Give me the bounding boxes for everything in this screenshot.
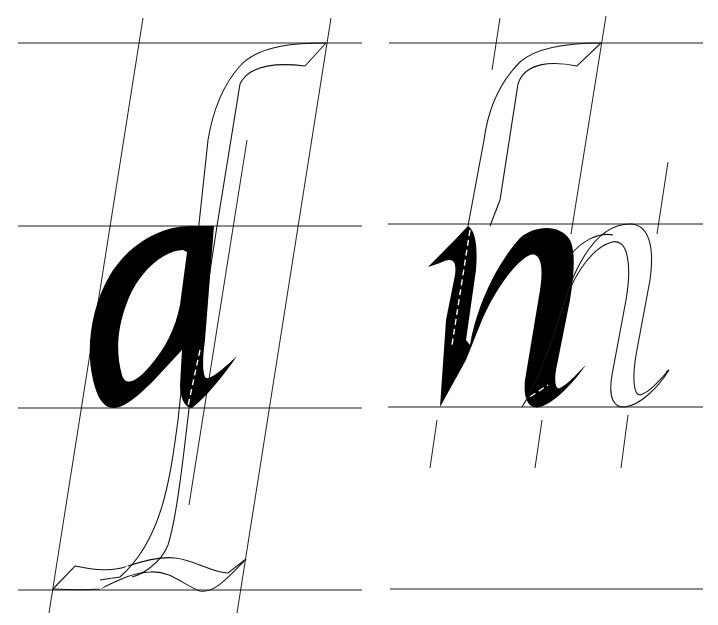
letter-n [428, 226, 586, 407]
right-panel [388, 16, 703, 589]
letter-a [90, 226, 237, 408]
right-ghost-stroke [468, 43, 601, 226]
left-panel [18, 18, 362, 613]
letterform-diagram [0, 0, 718, 625]
